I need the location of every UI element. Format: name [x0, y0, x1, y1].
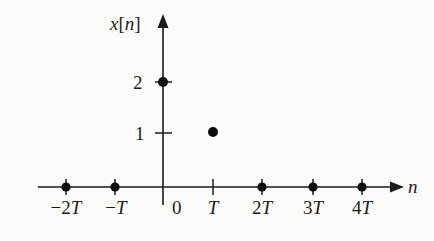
x-tick-label-minus-2t-unit: T — [71, 197, 82, 218]
x-axis-title: n — [408, 177, 418, 196]
data-point-marker — [257, 182, 266, 191]
x-tick-label-3t: 3T — [303, 198, 323, 217]
data-point-marker — [208, 127, 218, 137]
x-tick-label-4t: 4T — [352, 198, 372, 217]
data-point-marker — [110, 182, 119, 191]
x-tick-label-4t-num: 4 — [352, 197, 362, 218]
x-tick-label-minus-t-sign: − — [105, 197, 116, 218]
x-tick-label-2t-unit: T — [261, 197, 272, 218]
data-point-marker — [158, 77, 168, 87]
y-tick-label-2: 2 — [133, 73, 143, 92]
x-tick-label-4t-unit: T — [361, 197, 372, 218]
x-tick-label-2t-num: 2 — [252, 197, 262, 218]
x-tick-label-t: T — [208, 198, 219, 217]
x-tick-label-minus-2t-num: 2 — [61, 197, 71, 218]
y-axis-title-index: n — [125, 13, 135, 34]
y-axis-title: x[n] — [110, 14, 141, 33]
y-axis-arrow-icon — [158, 14, 169, 28]
y-tick-label-1: 1 — [135, 124, 145, 143]
x-tick-label-minus-t: −T — [105, 198, 126, 217]
data-point-marker — [308, 182, 317, 191]
data-point-marker — [357, 182, 366, 191]
x-tick-label-3t-unit: T — [312, 197, 323, 218]
x-tick-label-minus-2t-sign: − — [51, 197, 62, 218]
x-tick-label-zero: 0 — [172, 198, 182, 217]
x-tick-label-2t: 2T — [252, 198, 272, 217]
x-axis-arrow-icon — [390, 182, 404, 193]
x-tick-label-minus-2t: −2T — [51, 198, 82, 217]
data-point-marker — [61, 182, 70, 191]
y-axis-title-bracket-close: ] — [134, 13, 140, 34]
x-tick-label-minus-t-unit: T — [116, 197, 127, 218]
signal-plot-figure: x[n] n 2 1 −2T −T 0 T 2T 3T 4T — [0, 0, 434, 241]
x-tick-label-3t-num: 3 — [303, 197, 313, 218]
